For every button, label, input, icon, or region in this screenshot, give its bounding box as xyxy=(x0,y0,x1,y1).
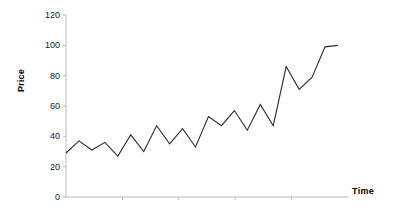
plot-area xyxy=(0,0,395,212)
x-axis-title: Time xyxy=(352,186,374,196)
price-series-line xyxy=(66,45,338,156)
price-time-line-chart: Price 020406080100120 Time xyxy=(0,0,395,212)
x-axis xyxy=(66,197,348,200)
y-axis xyxy=(63,15,66,197)
